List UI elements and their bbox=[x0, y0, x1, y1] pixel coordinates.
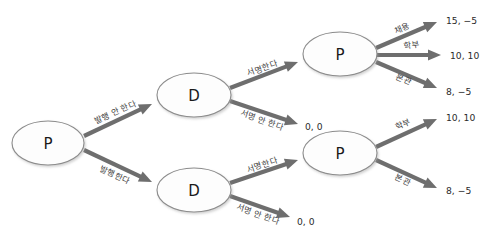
edge-arrowhead bbox=[428, 49, 441, 60]
node-label-p_bot: P bbox=[335, 145, 344, 163]
payoff-payoff_3: 8, −5 bbox=[446, 86, 471, 97]
edge-arrowhead bbox=[284, 159, 298, 170]
node-label-root: P bbox=[43, 135, 52, 153]
edge-label-e9: 본관 bbox=[395, 71, 414, 86]
node-label-p_top: P bbox=[335, 46, 344, 64]
node-p_top[interactable]: P bbox=[303, 32, 377, 76]
edge-label-e8: 학부 bbox=[403, 39, 420, 51]
payoff-payoff_bot_zero: 0, 0 bbox=[297, 216, 315, 227]
payoff-payoff_2: 10, 10 bbox=[450, 50, 479, 61]
edge-arrowhead bbox=[284, 115, 298, 126]
payoff-payoff_top_zero: 0, 0 bbox=[305, 121, 323, 132]
edge-arrowhead bbox=[284, 61, 298, 71]
edge-e8 bbox=[376, 49, 441, 60]
node-label-d_bot: D bbox=[188, 182, 200, 200]
node-d_bot[interactable]: D bbox=[157, 168, 231, 212]
tree-canvas: PDDPP 발행 안 한다발행한다서명한다서명 안 한다서명한다서명 안 한다채… bbox=[0, 0, 493, 249]
edge-label-e2: 발행한다 bbox=[98, 164, 131, 186]
payoff-payoff_4: 10, 10 bbox=[446, 112, 475, 123]
node-p_bot[interactable]: P bbox=[303, 131, 377, 175]
payoff-payoff_1: 15, −5 bbox=[446, 15, 477, 26]
node-label-d_top: D bbox=[188, 87, 200, 105]
payoff-payoff_5: 8, −5 bbox=[446, 185, 471, 196]
node-root[interactable]: P bbox=[12, 121, 84, 165]
game-tree-diagram: PDDPP 발행 안 한다발행한다서명한다서명 안 한다서명한다서명 안 한다채… bbox=[0, 0, 493, 249]
node-d_top[interactable]: D bbox=[157, 73, 231, 117]
